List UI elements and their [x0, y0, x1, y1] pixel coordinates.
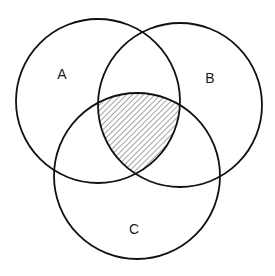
venn-diagram-svg: A B C: [0, 0, 275, 276]
set-a-label: A: [57, 66, 67, 82]
set-b-label: B: [205, 70, 214, 86]
venn-diagram: A B C: [0, 0, 275, 276]
set-c-label: C: [129, 221, 139, 237]
